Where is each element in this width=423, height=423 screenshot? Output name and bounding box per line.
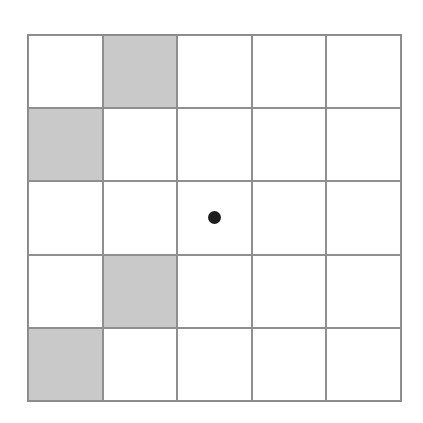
grid-cell bbox=[177, 108, 252, 181]
grid-cell bbox=[326, 328, 401, 401]
grid-cell bbox=[177, 35, 252, 108]
grid-cell bbox=[252, 181, 327, 254]
grid-cell bbox=[252, 255, 327, 328]
grid-cell bbox=[28, 181, 103, 254]
grid-cell bbox=[103, 108, 178, 181]
dot-marker-icon bbox=[208, 211, 221, 224]
grid-cell bbox=[326, 35, 401, 108]
grid-cell bbox=[177, 181, 252, 254]
grid-cell bbox=[326, 181, 401, 254]
grid-cell bbox=[177, 255, 252, 328]
grid-cell bbox=[103, 181, 178, 254]
shaded-cell bbox=[103, 255, 178, 328]
grid-cell bbox=[252, 328, 327, 401]
grid-cell bbox=[252, 35, 327, 108]
shaded-cell bbox=[103, 35, 178, 108]
shaded-cell bbox=[28, 328, 103, 401]
grid-cell bbox=[28, 35, 103, 108]
grid-board bbox=[27, 34, 402, 402]
grid-cell bbox=[326, 108, 401, 181]
grid-cell bbox=[28, 255, 103, 328]
grid-cell bbox=[252, 108, 327, 181]
grid-cell bbox=[326, 255, 401, 328]
shaded-cell bbox=[28, 108, 103, 181]
grid-cell bbox=[103, 328, 178, 401]
grid-cell bbox=[177, 328, 252, 401]
